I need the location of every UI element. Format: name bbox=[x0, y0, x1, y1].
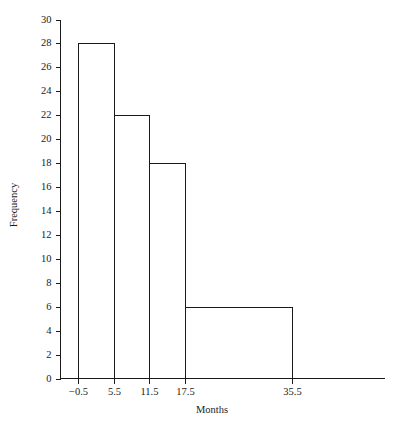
x-tick-label: 17.5 bbox=[176, 386, 194, 397]
y-tick-label: 4 bbox=[46, 325, 52, 336]
x-tick-label: −0.5 bbox=[69, 386, 88, 397]
x-axis-title: Months bbox=[196, 404, 228, 415]
y-tick-label: 22 bbox=[41, 109, 52, 120]
y-tick-label: 26 bbox=[41, 61, 52, 72]
y-tick-label: 8 bbox=[46, 277, 51, 288]
y-tick-label: 30 bbox=[41, 14, 52, 25]
y-tick-label: 12 bbox=[41, 229, 52, 240]
histogram-chart: 024681012141618202224262830 Frequency −0… bbox=[0, 0, 400, 429]
y-tick-label: 28 bbox=[41, 37, 52, 48]
y-tick-label: 18 bbox=[41, 157, 52, 168]
x-tick-label: 5.5 bbox=[108, 386, 121, 397]
x-tick-label: 11.5 bbox=[141, 386, 159, 397]
y-tick-label: 16 bbox=[41, 181, 52, 192]
y-tick-label: 10 bbox=[41, 253, 52, 264]
y-tick-label: 20 bbox=[41, 133, 52, 144]
y-tick-label: 0 bbox=[46, 373, 51, 384]
histogram-svg: 024681012141618202224262830 Frequency −0… bbox=[0, 0, 400, 429]
y-tick-label: 2 bbox=[46, 349, 51, 360]
y-tick-label: 14 bbox=[41, 205, 52, 216]
y-axis-title: Frequency bbox=[8, 182, 19, 227]
x-tick-label: 35.5 bbox=[283, 386, 301, 397]
y-tick-label: 6 bbox=[46, 301, 51, 312]
y-tick-label: 24 bbox=[41, 85, 52, 96]
